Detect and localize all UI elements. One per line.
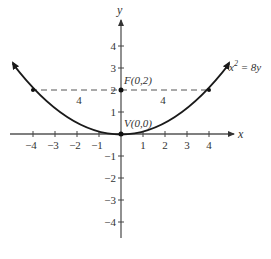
x-axis-label: x bbox=[237, 127, 244, 141]
svg-text:2: 2 bbox=[162, 139, 168, 151]
right-distance-label: 4 bbox=[160, 94, 166, 106]
equation-label: x2 = 8y bbox=[228, 59, 261, 73]
focus-label: F(0,2) bbox=[123, 74, 152, 87]
focus-point bbox=[119, 88, 124, 93]
svg-text:−1: −1 bbox=[91, 139, 103, 151]
svg-text:3: 3 bbox=[111, 62, 117, 74]
y-axis-label: y bbox=[116, 3, 123, 17]
x-tick-labels: −4 −3 −2 −1 1 2 3 4 bbox=[25, 139, 212, 151]
svg-text:−4: −4 bbox=[25, 139, 37, 151]
left-distance-label: 4 bbox=[76, 94, 82, 106]
svg-text:1: 1 bbox=[140, 139, 146, 151]
svg-text:1: 1 bbox=[111, 106, 117, 118]
svg-text:−2: −2 bbox=[69, 139, 81, 151]
svg-text:−1: −1 bbox=[104, 150, 116, 162]
svg-text:−3: −3 bbox=[104, 194, 116, 206]
left-latus-point bbox=[31, 88, 35, 92]
svg-text:3: 3 bbox=[184, 139, 190, 151]
svg-text:−2: −2 bbox=[104, 172, 116, 184]
right-latus-point bbox=[207, 88, 211, 92]
svg-text:4: 4 bbox=[111, 40, 117, 52]
vertex-point bbox=[119, 132, 124, 137]
svg-text:−3: −3 bbox=[47, 139, 59, 151]
svg-text:4: 4 bbox=[206, 139, 212, 151]
svg-text:−4: −4 bbox=[104, 216, 116, 228]
vertex-label: V(0,0) bbox=[124, 117, 152, 130]
parabola-diagram: x y −4 −3 −2 −1 1 2 3 4 4 3 2 1 −1 bbox=[0, 0, 271, 259]
